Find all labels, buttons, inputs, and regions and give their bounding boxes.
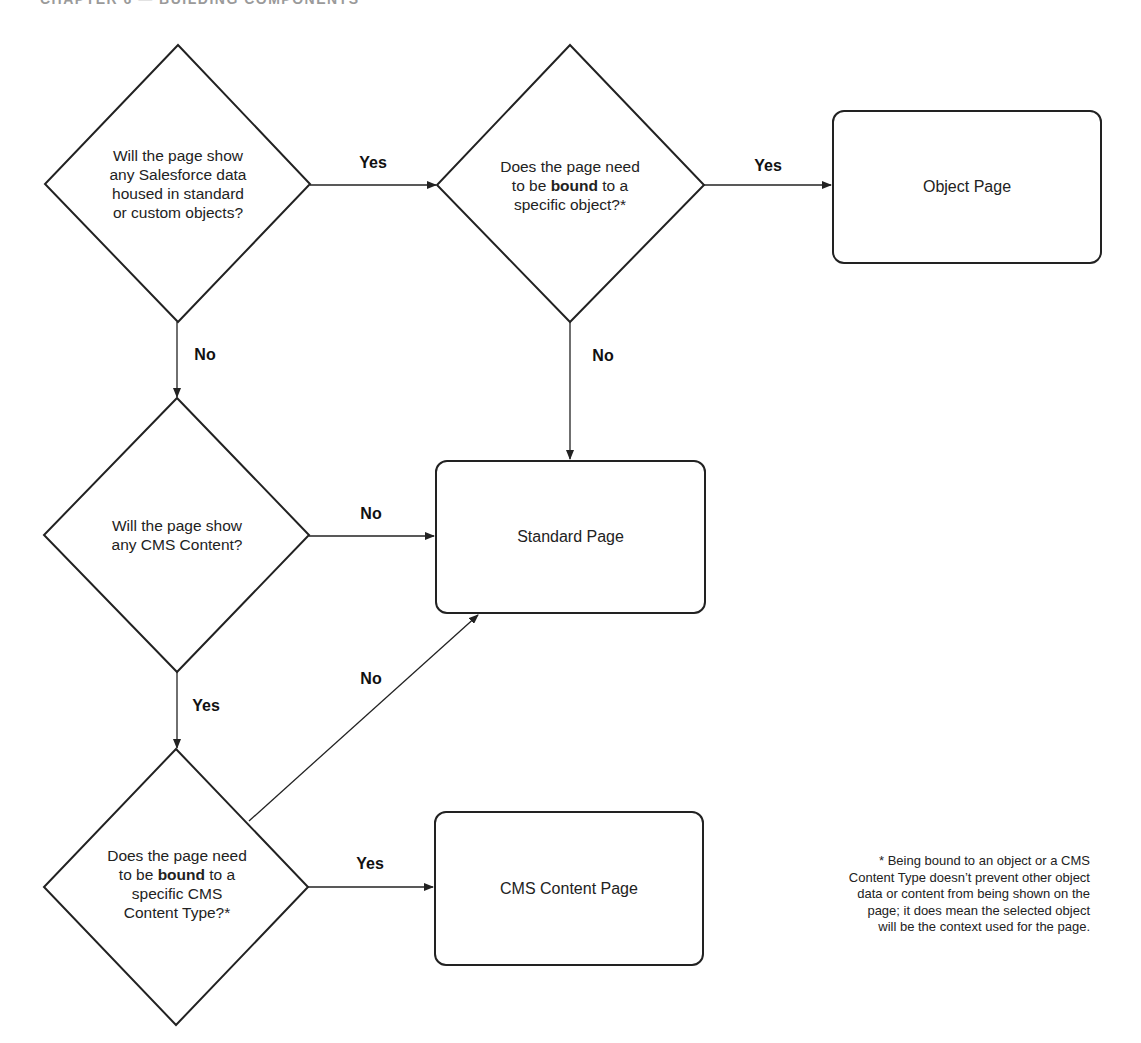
- bold-bound: bound: [158, 866, 205, 883]
- edge-label-d1-no: No: [194, 346, 215, 364]
- bold-bound: bound: [551, 177, 598, 194]
- outcome-object-page: Object Page: [832, 110, 1102, 264]
- footnote: * Being bound to an object or a CMS Cont…: [750, 853, 1090, 936]
- edge-label-d3-yes: Yes: [192, 697, 220, 715]
- decision-text-salesforce-data: Will the page show any Salesforce data h…: [78, 130, 278, 238]
- edge-label-d1-yes: Yes: [359, 154, 387, 172]
- decision-text-bound-cms-type: Does the page need to be bound to a spec…: [72, 839, 282, 929]
- decision-text-bound-object: Does the page need to be bound to a spec…: [470, 140, 670, 230]
- edge-label-d2-no: No: [592, 347, 613, 365]
- edge-label-d4-no: No: [360, 670, 381, 688]
- edge-label-d2-yes: Yes: [754, 157, 782, 175]
- edge-label-d4-yes: Yes: [356, 855, 384, 873]
- edge-label-d3-no: No: [360, 505, 381, 523]
- outcome-standard-page: Standard Page: [435, 460, 706, 614]
- outcome-cms-content-page: CMS Content Page: [434, 811, 704, 966]
- edge-d4-no-standard: [249, 615, 478, 821]
- decision-text-cms-content: Will the page show any CMS Content?: [77, 510, 277, 560]
